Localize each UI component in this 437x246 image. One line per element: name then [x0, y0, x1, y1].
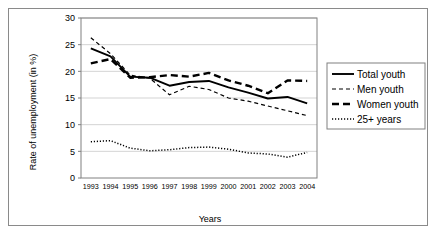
chart-figure: Rate of unemployment (in %) Years 051015…: [0, 0, 437, 246]
figure-border: Rate of unemployment (in %) Years 051015…: [8, 8, 428, 226]
series-line-men-youth: [91, 38, 307, 116]
series-line-women-youth: [91, 59, 307, 93]
legend-label: Total youth: [357, 69, 405, 80]
series-line-25-years: [91, 141, 307, 158]
line-chart-plot: 051015202530 199319941995199619971998199…: [9, 9, 429, 227]
y-tick-label: 30: [65, 13, 75, 23]
legend-label: Women youth: [357, 99, 419, 110]
x-tick-label: 2001: [240, 182, 256, 191]
y-axis-tick-labels: 051015202530: [65, 13, 81, 183]
y-tick-label: 25: [65, 40, 75, 50]
y-tick-label: 0: [70, 173, 75, 183]
x-tick-label: 1994: [103, 182, 119, 191]
x-tick-label: 1995: [122, 182, 138, 191]
x-tick-label: 2004: [299, 182, 315, 191]
y-tick-label: 10: [65, 120, 75, 130]
chart-legend: Total youthMen youthWomen youth25+ years: [327, 63, 425, 129]
data-series-lines: [91, 38, 307, 157]
y-tick-label: 15: [65, 93, 75, 103]
y-tick-label: 5: [70, 147, 75, 157]
x-tick-label: 1996: [142, 182, 158, 191]
grid-lines: [81, 18, 317, 151]
x-tick-label: 1999: [201, 182, 217, 191]
x-tick-label: 2002: [260, 182, 276, 191]
x-tick-label: 1997: [162, 182, 178, 191]
x-tick-label: 1998: [181, 182, 197, 191]
x-axis-tick-labels: 1993199419951996199719981999200020012002…: [83, 182, 315, 191]
legend-label: 25+ years: [357, 114, 401, 125]
x-tick-label: 2000: [221, 182, 237, 191]
legend-label: Men youth: [357, 84, 404, 95]
y-tick-label: 20: [65, 67, 75, 77]
x-tick-label: 2003: [280, 182, 296, 191]
x-tick-label: 1993: [83, 182, 99, 191]
